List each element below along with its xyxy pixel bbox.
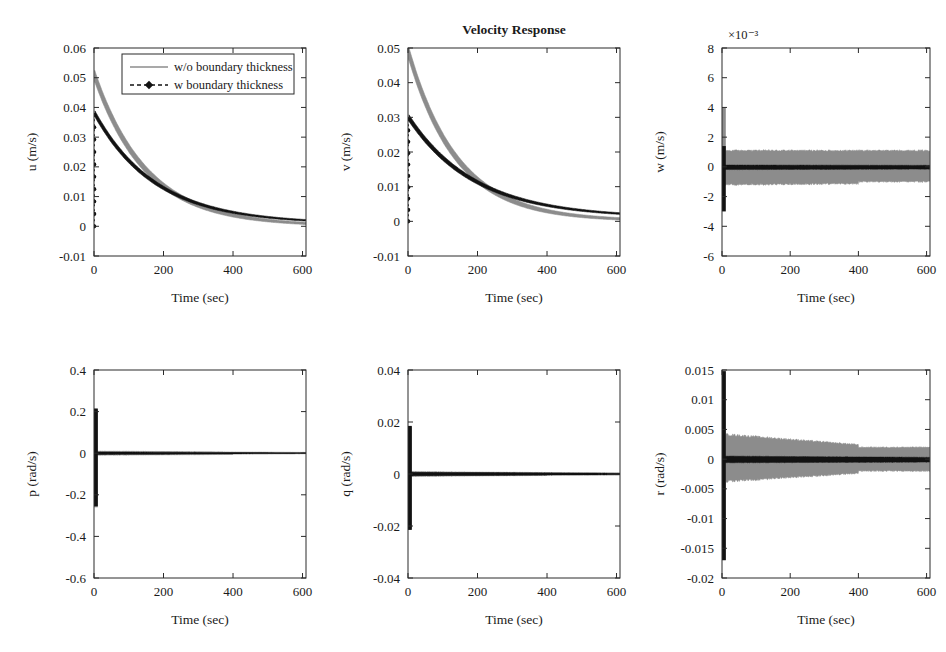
x-axis-label: Time (sec) [485,612,543,627]
y-tick-label: -0.005 [680,481,714,496]
series-without-boundary-thickness [407,427,620,528]
axis-exponent-label: ×10⁻³ [728,28,759,42]
x-tick-label: 0 [91,584,98,599]
y-tick-label: 0.01 [63,189,86,204]
x-tick-label: 600 [607,584,627,599]
x-tick-label: 0 [405,262,412,277]
y-tick-label: 0 [394,214,401,229]
y-tick-label: -0.2 [65,487,86,502]
y-tick-label: -0.01 [373,249,400,264]
x-tick-label: 400 [849,584,869,599]
y-tick-label: 0 [80,446,87,461]
chart-panel-v: Velocity Response0200400600-0.0100.010.0… [322,18,632,318]
y-tick-label: -6 [703,249,714,264]
y-tick-label: 0.01 [691,392,714,407]
y-tick-label: -4 [703,219,714,234]
y-tick-label: 0.06 [63,41,86,56]
series-without-boundary-thickness [93,410,306,508]
x-tick-label: 200 [780,584,800,599]
x-tick-label: 400 [223,584,243,599]
y-tick-label: 0.04 [377,363,400,378]
series-with-boundary-thickness [93,408,306,506]
plot-area [93,408,306,507]
y-axis-label: v (m/s) [338,133,353,172]
y-tick-label: -0.015 [680,541,714,556]
series-without-boundary-thickness [721,371,930,560]
x-tick-label: 400 [223,262,243,277]
y-tick-label: 0.04 [63,100,86,115]
chart-title: Velocity Response [462,22,565,37]
y-tick-label: 2 [708,130,715,145]
chart-panel-r: 0200400600-0.02-0.015-0.01-0.00500.0050.… [636,340,942,640]
y-tick-label: 0 [80,219,87,234]
x-tick-label: 600 [917,584,937,599]
y-tick-label: 0.02 [377,415,400,430]
chart-panel-u: 0200400600-0.0100.010.020.030.040.050.06… [8,18,318,318]
plot-area [721,371,930,560]
y-tick-label: -0.01 [59,249,86,264]
legend-entry-label: w boundary thickness [174,78,283,92]
series-with-boundary-thickness [92,111,306,228]
x-axis-label: Time (sec) [797,612,855,627]
y-axis-label: q (rad/s) [338,451,353,496]
x-axis-label: Time (sec) [797,290,855,305]
x-axis-label: Time (sec) [171,612,229,627]
x-tick-label: 400 [537,262,557,277]
chart-panel-p: 0200400600-0.6-0.4-0.200.20.4Time (sec)p… [8,340,318,640]
x-tick-label: 600 [607,262,627,277]
x-axis-label: Time (sec) [485,290,543,305]
y-tick-label: 0.04 [377,75,400,90]
y-tick-label: 0 [708,159,715,174]
x-tick-label: 200 [468,262,488,277]
axes-frame [408,48,620,256]
axes-frame [94,370,306,578]
x-tick-label: 400 [849,262,869,277]
y-tick-label: 0.015 [685,363,714,378]
x-tick-label: 600 [293,584,313,599]
x-tick-label: 200 [154,262,174,277]
y-tick-label: 0.005 [685,422,714,437]
y-tick-label: 0 [394,467,401,482]
y-tick-label: 0.02 [377,145,400,160]
series-without-boundary-thickness [721,107,930,185]
x-tick-label: 0 [405,584,412,599]
y-axis-label: p (rad/s) [24,451,39,496]
y-tick-label: -0.4 [65,529,86,544]
y-tick-label: 0.02 [63,159,86,174]
x-tick-label: 200 [154,584,174,599]
legend: w/o boundary thicknessw boundary thickne… [122,54,294,94]
x-tick-label: 600 [917,262,937,277]
y-tick-label: -0.04 [373,571,401,586]
y-tick-label: -0.02 [687,571,714,586]
y-tick-label: -0.6 [65,571,86,586]
y-tick-label: 4 [708,100,715,115]
y-tick-label: 0.05 [63,70,86,85]
y-tick-label: 0.4 [70,363,87,378]
y-tick-label: -2 [703,189,714,204]
y-tick-label: 8 [708,41,715,56]
y-tick-label: 0.03 [377,110,400,125]
y-tick-label: -0.02 [373,519,400,534]
y-axis-label: w (m/s) [652,131,667,173]
y-tick-label: 0.2 [70,404,86,419]
x-tick-label: 400 [537,584,557,599]
y-tick-label: 0.05 [377,41,400,56]
plot-area [721,107,930,211]
y-tick-label: 0.01 [377,179,400,194]
legend-entry-label: w/o boundary thickness [174,60,293,74]
plot-area [406,47,620,224]
velocity-response-figure: 0200400600-0.0100.010.020.030.040.050.06… [0,0,946,652]
series-without-boundary-thickness [409,47,620,220]
chart-panel-q: 0200400600-0.04-0.0200.020.04Time (sec)q… [322,340,632,640]
x-tick-label: 0 [719,262,726,277]
x-tick-label: 600 [293,262,313,277]
y-tick-label: 0 [708,452,715,467]
x-tick-label: 200 [468,584,488,599]
y-axis-label: r (rad/s) [652,452,667,495]
y-tick-label: 6 [708,70,715,85]
x-tick-label: 0 [719,584,726,599]
chart-panel-w: ×10⁻³0200400600-6-4-202468Time (sec)w (m… [636,18,942,318]
series-with-boundary-thickness [407,426,620,530]
x-tick-label: 0 [91,262,98,277]
y-axis-label: u (m/s) [24,133,39,172]
